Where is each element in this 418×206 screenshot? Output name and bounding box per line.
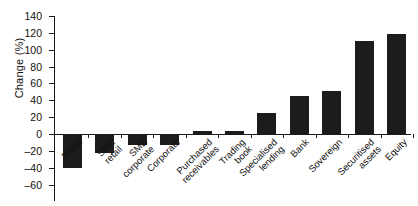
y-tick: –20: [49, 151, 54, 152]
y-tick: 20: [49, 117, 54, 118]
y-tick: 80: [49, 67, 54, 68]
x-tick: [186, 134, 187, 138]
y-tick-label: –20: [24, 146, 42, 157]
x-tick: [218, 134, 219, 138]
x-tick: [316, 134, 317, 138]
bar: [387, 34, 406, 134]
y-tick-label: 0: [36, 129, 42, 140]
y-tick-label: 80: [30, 61, 42, 72]
x-tick: [348, 134, 349, 138]
y-tick-label: 40: [30, 95, 42, 106]
y-tick: 140: [49, 16, 54, 17]
y-tick-label: 120: [24, 28, 42, 39]
bar: [193, 131, 212, 134]
bar: [355, 41, 374, 134]
y-tick: 60: [49, 83, 54, 84]
x-tick: [283, 134, 284, 138]
x-tick: [381, 134, 382, 138]
y-tick: –60: [49, 185, 54, 186]
x-tick: [153, 134, 154, 138]
bar: [225, 131, 244, 134]
bar: [322, 91, 341, 134]
y-tick-label: 60: [30, 78, 42, 89]
y-tick: 0: [49, 134, 54, 135]
x-tick: [251, 134, 252, 138]
y-tick: 100: [49, 50, 54, 51]
x-tick: [121, 134, 122, 138]
x-tick: [413, 134, 414, 138]
y-tick-label: 100: [24, 44, 42, 55]
bar: [290, 96, 309, 134]
plot-area: 140120100806040200–20–40–60 RetailSMEret…: [54, 16, 411, 201]
y-tick-label: 20: [30, 112, 42, 123]
y-axis-title: Change (%): [13, 20, 25, 116]
bar: [257, 113, 276, 134]
bar-chart: Change (%) 140120100806040200–20–40–60 R…: [0, 0, 418, 206]
y-tick: 120: [49, 33, 54, 34]
y-tick-label: 140: [24, 11, 42, 22]
x-tick: [88, 134, 89, 138]
y-tick: 40: [49, 100, 54, 101]
y-tick-label: –40: [24, 162, 42, 173]
